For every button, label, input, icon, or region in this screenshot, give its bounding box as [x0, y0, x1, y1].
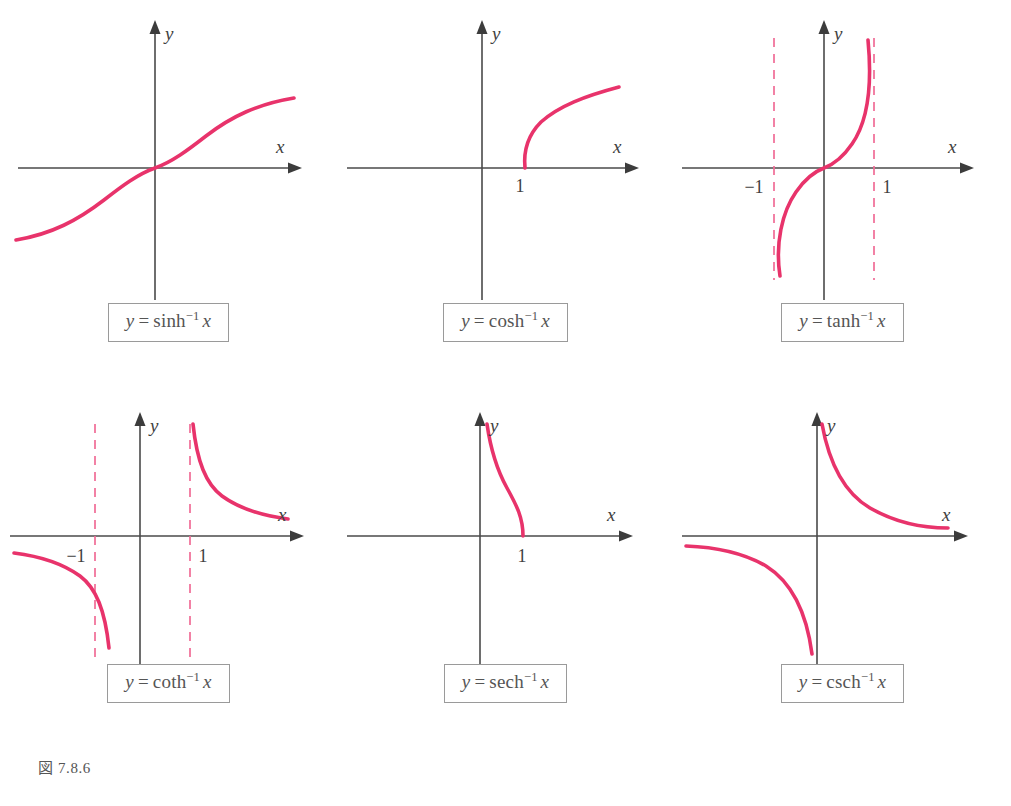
plot-coth-inverse: −1 1 x y: [0, 376, 337, 676]
equation-lhs: y: [461, 310, 470, 331]
equation-function: tanh: [827, 310, 861, 331]
plot-sech-inverse: 1 x y: [337, 376, 674, 676]
panel-sinh-inverse: x y y=sinh−1x: [0, 8, 337, 376]
equation-operator: =: [474, 310, 485, 331]
x-axis-label: x: [947, 136, 957, 157]
y-axis-label: y: [488, 415, 499, 436]
x-axis-arrowhead: [960, 163, 974, 174]
x-axis-label: x: [941, 504, 951, 525]
axes-group: [347, 412, 633, 664]
equation-exponent: −1: [861, 670, 875, 684]
axes-group: [18, 20, 302, 300]
equation-box-cosh-inverse: y=cosh−1x: [443, 303, 568, 342]
equation-box-sinh-inverse: y=sinh−1x: [108, 303, 229, 342]
tick-label-x-negative-1: −1: [66, 546, 85, 566]
curve-csch-inverse-positive-branch: [822, 424, 948, 528]
y-axis-arrowhead: [135, 412, 146, 426]
equation-lhs: y: [125, 671, 134, 692]
tick-label-x-1: 1: [516, 176, 525, 196]
equation-exponent: −1: [186, 670, 200, 684]
equation-box-wrap-tanh: y=tanh−1x: [674, 303, 1011, 342]
equation-exponent: −1: [186, 309, 200, 323]
equation-lhs: y: [799, 310, 808, 331]
panel-grid: x y y=sinh−1x: [0, 8, 1011, 748]
plot-csch-inverse: x y: [674, 376, 1011, 676]
panel-coth-inverse: −1 1 x y y=coth−1x: [0, 376, 337, 728]
equation-argument: x: [877, 310, 886, 331]
figure-root: x y y=sinh−1x: [0, 0, 1011, 806]
equation-argument: x: [541, 671, 550, 692]
equation-operator: =: [138, 310, 149, 331]
equation-operator: =: [138, 671, 149, 692]
equation-argument: x: [203, 310, 212, 331]
axes-group: [10, 412, 304, 664]
x-axis-arrowhead: [619, 531, 633, 542]
y-axis-arrowhead: [475, 412, 486, 426]
equation-lhs: y: [462, 671, 471, 692]
curve-csch-inverse-negative-branch: [686, 546, 812, 654]
equation-operator: =: [811, 671, 822, 692]
curve-coth-inverse-right-branch: [193, 424, 288, 519]
equation-operator: =: [474, 671, 485, 692]
equation-box-wrap-sinh: y=sinh−1x: [0, 303, 337, 342]
panel-tanh-inverse: −1 1 x y y=tanh−1x: [674, 8, 1011, 376]
x-axis-arrowhead: [290, 531, 304, 542]
tick-label-x-negative-1: −1: [744, 177, 763, 197]
equation-argument: x: [541, 310, 550, 331]
x-axis-arrowhead: [625, 163, 639, 174]
equation-function: csch: [826, 671, 861, 692]
x-axis-label: x: [612, 136, 622, 157]
equation-function: sinh: [153, 310, 185, 331]
plot-tanh-inverse: −1 1 x y: [674, 8, 1011, 308]
equation-lhs: y: [126, 310, 135, 331]
plot-sinh-inverse: x y: [0, 8, 337, 308]
x-axis-arrowhead: [954, 531, 968, 542]
x-axis-arrowhead: [288, 163, 302, 174]
axes-group: [347, 20, 639, 300]
panel-sech-inverse: 1 x y y=sech−1x: [337, 376, 674, 728]
equation-box-wrap-sech: y=sech−1x: [337, 664, 674, 703]
x-axis-label: x: [277, 504, 287, 525]
equation-argument: x: [203, 671, 212, 692]
y-axis-arrowhead: [477, 20, 488, 34]
equation-box-wrap-csch: y=csch−1x: [674, 664, 1011, 703]
curve-sech-inverse: [487, 424, 523, 536]
equation-function: cosh: [489, 310, 525, 331]
panel-cosh-inverse: 1 x y y=cosh−1x: [337, 8, 674, 376]
equation-box-csch-inverse: y=csch−1x: [781, 664, 905, 703]
equation-box-tanh-inverse: y=tanh−1x: [781, 303, 903, 342]
y-axis-arrowhead: [819, 20, 830, 34]
y-axis-label: y: [148, 415, 159, 436]
equation-function: coth: [153, 671, 187, 692]
equation-lhs: y: [799, 671, 808, 692]
y-axis-arrowhead: [150, 20, 161, 34]
axes-group: [682, 412, 968, 664]
tick-label-x-1: 1: [518, 546, 527, 566]
plot-cosh-inverse: 1 x y: [337, 8, 674, 308]
curve-cosh-inverse: [525, 87, 619, 168]
figure-caption: 図 7.8.6: [38, 756, 91, 777]
equation-box-wrap-cosh: y=cosh−1x: [337, 303, 674, 342]
y-axis-label: y: [163, 23, 174, 44]
equation-exponent: −1: [860, 309, 874, 323]
equation-argument: x: [878, 671, 887, 692]
x-axis-label: x: [275, 136, 285, 157]
y-axis-label: y: [490, 23, 501, 44]
equation-operator: =: [812, 310, 823, 331]
panel-csch-inverse: x y y=csch−1x: [674, 376, 1011, 728]
equation-exponent: −1: [524, 670, 538, 684]
equation-exponent: −1: [524, 309, 538, 323]
equation-box-sech-inverse: y=sech−1x: [444, 664, 568, 703]
tick-label-x-positive-1: 1: [883, 177, 892, 197]
equation-box-coth-inverse: y=coth−1x: [107, 664, 229, 703]
y-axis-label: y: [832, 23, 843, 44]
tick-label-x-positive-1: 1: [199, 546, 208, 566]
equation-box-wrap-coth: y=coth−1x: [0, 664, 337, 703]
axes-group: [682, 20, 974, 300]
equation-function: sech: [489, 671, 524, 692]
x-axis-label: x: [606, 504, 616, 525]
y-axis-label: y: [825, 415, 836, 436]
